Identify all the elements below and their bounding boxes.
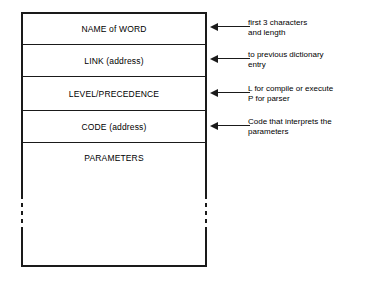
field-label-code-address: CODE (address) — [21, 122, 207, 132]
arrow-left-icon — [210, 121, 250, 130]
field-label-parameters: PARAMETERS — [21, 153, 207, 163]
annotation-line: Code that interprets the — [248, 117, 373, 127]
field-label-level-precedence: LEVEL/PRECEDENCE — [21, 89, 207, 99]
field-divider-1 — [21, 44, 207, 45]
box-border-bottom — [21, 265, 207, 267]
box-border-left-upper — [21, 12, 23, 195]
arrow-left-icon — [210, 54, 250, 63]
annotation-text-level-precedence: L for compile or execute P for parser — [248, 84, 373, 103]
box-border-top — [21, 12, 207, 14]
arrow-left-icon — [210, 22, 250, 31]
annotation-line: and length — [248, 28, 373, 38]
annotation-line: entry — [248, 60, 373, 70]
field-label-link-address: LINK (address) — [21, 56, 207, 66]
arrow-left-icon — [210, 88, 250, 97]
box-border-left-dashed — [21, 195, 23, 228]
structure-diagram: NAME of WORD LINK (address) LEVEL/PRECED… — [0, 0, 373, 285]
field-divider-2 — [21, 76, 207, 77]
annotation-line: parameters — [248, 127, 373, 137]
annotation-text-link-address: to previous dictionary entry — [248, 50, 373, 69]
box-border-left-lower — [21, 228, 23, 267]
box-border-right-upper — [205, 12, 207, 195]
box-border-right-dashed — [205, 195, 207, 228]
annotation-line: L for compile or execute — [248, 84, 373, 94]
annotation-text-name-of-word: first 3 characters and length — [248, 18, 373, 37]
field-divider-3 — [21, 110, 207, 111]
annotation-line: to previous dictionary — [248, 50, 373, 60]
field-label-name-of-word: NAME of WORD — [21, 24, 207, 34]
annotation-line: first 3 characters — [248, 18, 373, 28]
record-structure-box: NAME of WORD LINK (address) LEVEL/PRECED… — [21, 12, 207, 267]
field-divider-4 — [21, 142, 207, 143]
annotation-text-code-address: Code that interprets the parameters — [248, 117, 373, 136]
box-border-right-lower — [205, 228, 207, 267]
annotation-line: P for parser — [248, 94, 373, 104]
